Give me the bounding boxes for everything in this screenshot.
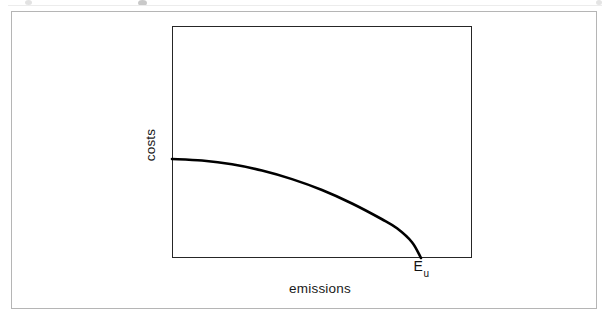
cropped-heading-remnant	[0, 0, 608, 7]
y-axis-label: costs	[143, 129, 158, 162]
x-intercept-annotation: Eu	[414, 259, 429, 277]
figure-canvas: costs emissions Eu	[0, 0, 608, 320]
plot-area-box	[172, 26, 472, 258]
remnant-mark-right	[596, 0, 602, 5]
x-intercept-subscript: u	[423, 268, 429, 279]
remnant-mark-left	[25, 0, 32, 5]
remnant-mark-center	[138, 0, 147, 6]
x-axis-label: emissions	[289, 281, 351, 296]
x-intercept-base-letter: E	[414, 258, 423, 274]
remnant-rule	[8, 5, 602, 6]
